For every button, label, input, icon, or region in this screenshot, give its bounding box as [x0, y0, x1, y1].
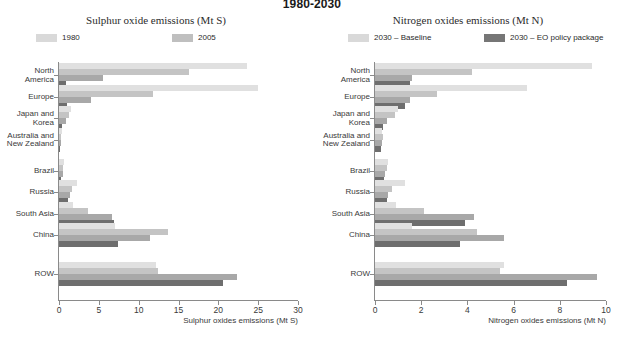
y-tick-mark — [370, 171, 374, 172]
x-axis-line — [374, 300, 606, 301]
legend-nitrogen: 2030 – Baseline 2030 – EO policy package — [312, 33, 624, 47]
legend-swatch — [348, 34, 369, 42]
legend-swatch — [36, 34, 57, 42]
category-label: China — [312, 231, 370, 240]
legend-item[interactable]: 1980 — [36, 33, 80, 42]
x-axis-label: Nitrogen oxides emissions (Mt N) — [488, 316, 606, 325]
legend-label: 2030 – Baseline — [374, 33, 431, 42]
category-label: Australia and New Zealand — [312, 131, 370, 148]
x-tick-label: 0 — [373, 305, 378, 315]
category-label: Russia — [312, 188, 370, 197]
y-tick-mark — [54, 235, 58, 236]
y-tick-mark — [370, 75, 374, 76]
x-tick-label: 2 — [419, 305, 424, 315]
category-label: Japan and Korea — [312, 110, 370, 127]
legend-item[interactable]: 2005 — [172, 33, 216, 42]
y-tick-mark — [54, 274, 58, 275]
category-label: Russia — [0, 188, 54, 197]
bar — [59, 241, 118, 247]
legend-item[interactable]: 2030 – EO policy package — [484, 33, 603, 42]
plot-area-nitrogen — [374, 62, 606, 301]
x-tick-label: 25 — [253, 305, 262, 315]
x-tick-label: 4 — [465, 305, 470, 315]
x-axis-label: Sulphur oxides emissions (Mt S) — [183, 316, 298, 325]
legend-sulphur: 1980 2005 — [0, 33, 312, 47]
plot-area-sulphur — [58, 62, 298, 301]
bar — [59, 280, 223, 286]
legend-swatch — [484, 34, 505, 42]
category-label: South Asia — [312, 210, 370, 219]
x-tick-label: 30 — [293, 305, 302, 315]
panel-title-sulphur: Sulphur oxide emissions (Mt S) — [0, 14, 312, 26]
y-tick-mark — [54, 214, 58, 215]
category-label: Europe — [0, 92, 54, 101]
bar — [375, 146, 381, 152]
x-tick-label: 5 — [96, 305, 101, 315]
category-label: Europe — [312, 92, 370, 101]
category-label: Brazil — [312, 166, 370, 175]
y-tick-mark — [54, 75, 58, 76]
category-label: Australia and New Zealand — [0, 131, 54, 148]
y-tick-mark — [370, 97, 374, 98]
y-tick-mark — [54, 171, 58, 172]
bar — [59, 146, 60, 152]
category-label: North America — [0, 67, 54, 84]
category-label: ROW — [0, 269, 54, 278]
y-tick-mark — [370, 214, 374, 215]
y-tick-mark — [370, 235, 374, 236]
x-tick-label: 8 — [557, 305, 562, 315]
legend-item[interactable]: 2030 – Baseline — [348, 33, 431, 42]
legend-label: 2005 — [198, 33, 216, 42]
panel-nitrogen: Nitrogen oxides emissions (Mt N) 2030 – … — [312, 0, 624, 337]
x-tick-label: 10 — [601, 305, 610, 315]
y-tick-mark — [370, 140, 374, 141]
y-tick-mark — [54, 97, 58, 98]
y-tick-mark — [54, 140, 58, 141]
y-tick-mark — [54, 118, 58, 119]
legend-swatch — [172, 34, 193, 42]
legend-label: 2030 – EO policy package — [510, 33, 603, 42]
y-tick-mark — [54, 192, 58, 193]
x-tick-label: 10 — [134, 305, 143, 315]
category-label: South Asia — [0, 210, 54, 219]
category-label: North America — [312, 67, 370, 84]
category-label: Japan and Korea — [0, 110, 54, 127]
chart-page: 1980-2030 Sulphur oxide emissions (Mt S)… — [0, 0, 624, 337]
panel-title-nitrogen: Nitrogen oxides emissions (Mt N) — [312, 14, 624, 26]
category-label: China — [0, 231, 54, 240]
legend-label: 1980 — [62, 33, 80, 42]
category-label: Brazil — [0, 166, 54, 175]
panel-sulphur: Sulphur oxide emissions (Mt S) 1980 2005… — [0, 0, 312, 337]
bar — [375, 280, 567, 286]
category-label: ROW — [312, 269, 370, 278]
x-tick-label: 0 — [57, 305, 62, 315]
x-tick-label: 20 — [214, 305, 223, 315]
x-tick-label: 6 — [511, 305, 516, 315]
x-tick-label: 15 — [174, 305, 183, 315]
bar — [375, 241, 460, 247]
y-tick-mark — [370, 274, 374, 275]
y-tick-mark — [370, 118, 374, 119]
y-tick-mark — [370, 192, 374, 193]
